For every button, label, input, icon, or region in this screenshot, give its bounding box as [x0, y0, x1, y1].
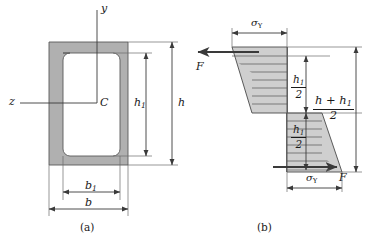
total-lever-numerator: h + h1 [313, 95, 354, 108]
z-axis-label: z [9, 96, 15, 107]
centroid-label: C [100, 97, 108, 108]
caption-b: (b) [257, 222, 272, 233]
box-section-shape [49, 42, 128, 165]
total-lever-label: h + h1 2 [313, 95, 354, 122]
b1-dimension-label: b1 [85, 180, 97, 193]
b1-subscript: 1 [92, 184, 97, 193]
force-label-top: F [196, 61, 204, 72]
h1-dimension-label: h1 [134, 97, 146, 110]
h1-half-upper-denominator: 2 [291, 89, 306, 100]
sigma-top-subscript: Y [258, 22, 263, 30]
y-axis-label: y [101, 3, 107, 14]
h1-subscript: 1 [141, 101, 146, 110]
h1-half-lower-denominator: 2 [291, 139, 306, 150]
figure-container: y z C h1 h b1 b (a) σY σY F F h1 2 h1 2 … [0, 0, 376, 243]
h-dimension-label: h [178, 97, 185, 108]
caption-a: (a) [80, 222, 94, 233]
sigma-yield-top-label: σY [251, 18, 262, 30]
force-label-bottom: F [339, 172, 347, 183]
h1-half-lower-label: h1 2 [291, 124, 306, 149]
h1-half-upper-label: h1 2 [291, 74, 306, 99]
sigma-yield-bottom-label: σY [306, 173, 317, 185]
h1-half-lower-numerator: h1 [291, 124, 306, 137]
h1-half-upper-numerator: h1 [291, 74, 306, 87]
cross-section-group [20, 10, 178, 216]
total-lever-denominator: 2 [313, 110, 354, 122]
b-dimension-label: b [85, 197, 92, 208]
sigma-bottom-subscript: Y [313, 177, 318, 185]
